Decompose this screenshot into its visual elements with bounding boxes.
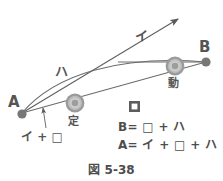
equation-a: A= イ + □ + ハ (118, 135, 217, 152)
figure-caption: 図 5-38 (0, 160, 223, 177)
equation-b: B= □ + ハ (118, 117, 186, 134)
label-ring-moving: 動 (168, 78, 179, 89)
ring-moving (166, 57, 185, 76)
vector-arrow-i (22, 19, 178, 113)
label-segment-ha: ハ (55, 65, 68, 78)
ring-fixed (66, 94, 85, 113)
label-leader-i-plus-square: イ + □ (21, 131, 63, 143)
square-symbol-standalone (129, 101, 140, 112)
diagram-canvas (0, 0, 223, 181)
label-point-a: A (8, 95, 20, 110)
figure-container: A B イ ハ 定 動 イ + □ B= □ + ハ A= イ + □ + ハ … (0, 0, 223, 181)
point-b-dot (201, 57, 210, 66)
label-ring-fixed: 定 (68, 116, 79, 127)
label-point-b: B (199, 40, 210, 55)
label-segment-i: イ (135, 29, 148, 42)
leader-arrow (43, 108, 46, 128)
